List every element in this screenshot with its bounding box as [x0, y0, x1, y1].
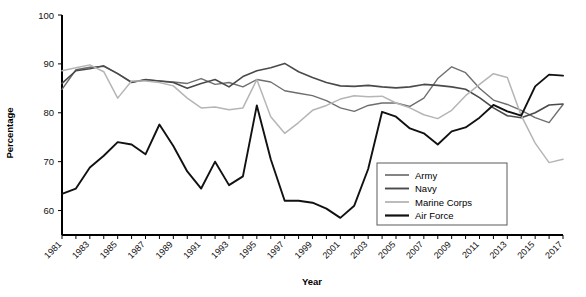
x-tick-label: 1999 — [293, 239, 314, 260]
x-tick-label: 1991 — [181, 239, 202, 260]
x-tick-label: 2015 — [515, 239, 536, 260]
series-line-army — [62, 66, 563, 122]
x-tick-label: 1997 — [265, 239, 286, 260]
x-tick-label: 1987 — [126, 239, 147, 260]
x-tick-label: 2003 — [348, 239, 369, 260]
x-tick-label: 2007 — [404, 239, 425, 260]
y-tick-label: 60 — [43, 205, 54, 216]
x-tick-label: 1995 — [237, 239, 258, 260]
legend-label-navy[interactable]: Navy — [415, 183, 437, 194]
x-tick-label: 2009 — [432, 239, 453, 260]
y-tick-label: 100 — [38, 10, 54, 21]
line-chart: 60708090100 1981198319851987198919911993… — [0, 0, 586, 297]
x-tick-label: 2001 — [321, 239, 342, 260]
y-tick-label: 70 — [43, 156, 54, 167]
x-tick-label: 1981 — [42, 239, 63, 260]
chart-canvas: 60708090100 1981198319851987198919911993… — [0, 0, 586, 297]
y-tick-label: 80 — [43, 107, 54, 118]
legend-label-air-force[interactable]: Air Force — [415, 210, 454, 221]
x-tick-labels: 1981198319851987198919911993199519971999… — [42, 239, 564, 260]
y-axis-title: Percentage — [4, 107, 15, 158]
y-tick-labels: 60708090100 — [38, 10, 62, 217]
x-tick-label: 1985 — [98, 239, 119, 260]
x-tick-label: 2011 — [460, 239, 481, 260]
x-tick-label: 2013 — [488, 239, 509, 260]
x-axis-title: Year — [302, 276, 322, 287]
x-tick-label: 1989 — [154, 239, 175, 260]
x-tick-label: 1983 — [70, 239, 91, 260]
x-tick-label: 2005 — [376, 239, 397, 260]
legend-label-marine-corps[interactable]: Marine Corps — [415, 197, 472, 208]
x-tick-label: 1993 — [209, 239, 230, 260]
x-tick-label: 2017 — [543, 239, 564, 260]
y-tick-label: 90 — [43, 58, 54, 69]
legend-label-army[interactable]: Army — [415, 170, 437, 181]
legend[interactable]: ArmyNavyMarine CorpsAir Force — [377, 163, 507, 225]
